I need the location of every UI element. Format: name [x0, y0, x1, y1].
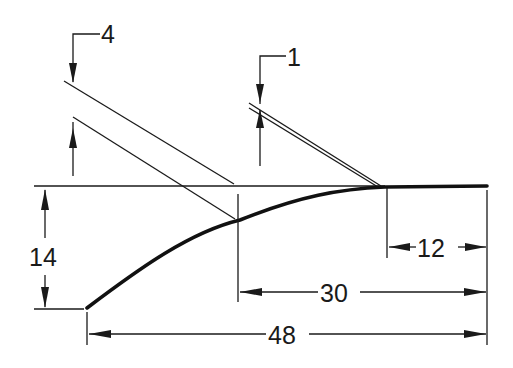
tangent-line-b [249, 108, 378, 187]
dimension-12: 12 [389, 234, 486, 262]
callout-1-label: 1 [287, 43, 301, 71]
callout-1: 1 [256, 43, 301, 166]
upper-line-a [64, 81, 234, 184]
dimension-30-label: 30 [320, 279, 348, 307]
dimension-48: 48 [89, 321, 486, 349]
drawing-canvas: 4 1 14 12 30 [0, 0, 513, 368]
dimension-48-label: 48 [268, 321, 296, 349]
upper-line-b [73, 117, 235, 219]
tangent-line-a [249, 103, 381, 186]
dimension-12-label: 12 [417, 234, 445, 262]
dimension-14-label: 14 [29, 243, 57, 271]
callout-4-label: 4 [101, 20, 115, 48]
dimension-30: 30 [240, 279, 486, 307]
dimension-14: 14 [29, 189, 57, 308]
